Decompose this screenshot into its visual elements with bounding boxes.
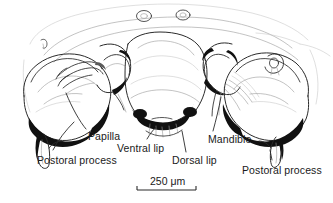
- label-postoral-process-right: Postoral process: [242, 165, 322, 176]
- scale-bar-label: 250 μm: [150, 176, 185, 187]
- leader-ventral-lip: [147, 127, 156, 139]
- leader-dorsal-lip: [182, 131, 186, 152]
- leader-papilla: [66, 93, 86, 129]
- mouth-cone: [125, 32, 207, 137]
- left-papilla-cluster: [56, 62, 106, 94]
- figure-container: Papilla Postoral process Ventral lip Dor…: [0, 0, 333, 203]
- dorsal-sensory-pits: [41, 10, 190, 49]
- label-papilla: Papilla: [88, 131, 120, 142]
- label-ventral-lip: Ventral lip: [117, 143, 164, 154]
- body-outline-faint: [23, 4, 330, 112]
- label-dorsal-lip: Dorsal lip: [172, 155, 217, 166]
- label-postoral-process-left: Postoral process: [37, 155, 117, 166]
- right-mandible: [202, 43, 259, 116]
- leader-mandible: [213, 97, 221, 131]
- label-mandible: Mandible: [208, 134, 251, 145]
